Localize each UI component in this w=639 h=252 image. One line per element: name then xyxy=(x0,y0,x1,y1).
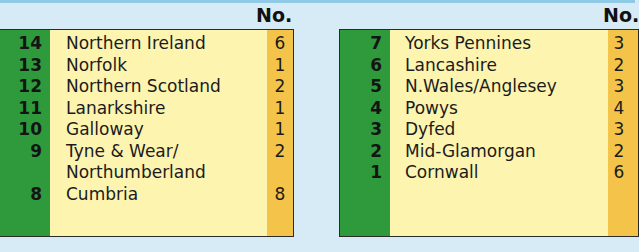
count-cell: 1 xyxy=(267,55,293,77)
rank-cell: 1 xyxy=(340,162,382,184)
table-row: 7Yorks Pennines3 xyxy=(340,33,638,55)
count-cell: 1 xyxy=(267,119,293,141)
count-cell: 6 xyxy=(267,33,293,55)
table-row: 9Tyne & Wear/2 xyxy=(0,141,293,163)
region-name: Dyfed xyxy=(405,119,455,141)
count-cell: 8 xyxy=(267,184,293,206)
rank-cell: 9 xyxy=(0,141,42,163)
table-row: 5N.Wales/Anglesey3 xyxy=(340,76,638,98)
right-table: 7Yorks Pennines36Lancashire25N.Wales/Ang… xyxy=(339,29,639,237)
region-name: Northern Scotland xyxy=(66,76,221,98)
region-name: Yorks Pennines xyxy=(405,33,531,55)
rank-cell: 4 xyxy=(340,98,382,120)
region-name: Norfolk xyxy=(66,55,127,77)
region-name: Cumbria xyxy=(66,184,138,206)
rank-cell: 3 xyxy=(340,119,382,141)
table-row: 2Mid-Glamorgan2 xyxy=(340,141,638,163)
table-row: 14Northern Ireland6 xyxy=(0,33,293,55)
region-name: Galloway xyxy=(66,119,144,141)
table-row: 13Norfolk1 xyxy=(0,55,293,77)
table-row: 10Galloway1 xyxy=(0,119,293,141)
count-cell: 4 xyxy=(608,98,630,120)
table-row: 8Cumbria8 xyxy=(0,184,293,206)
table-row: 6Lancashire2 xyxy=(340,55,638,77)
right-no-header: No. xyxy=(603,4,639,26)
table-row: 11Lanarkshire1 xyxy=(0,98,293,120)
region-name: Northumberland xyxy=(66,162,206,184)
region-name: Cornwall xyxy=(405,162,479,184)
rank-cell: 12 xyxy=(0,76,42,98)
top-divider xyxy=(0,0,635,3)
left-table: 14Northern Ireland613Norfolk112Northern … xyxy=(0,29,294,237)
table-row: 3Dyfed3 xyxy=(340,119,638,141)
rank-cell: 5 xyxy=(340,76,382,98)
rank-cell: 10 xyxy=(0,119,42,141)
rank-cell: 11 xyxy=(0,98,42,120)
count-cell: 3 xyxy=(608,119,630,141)
count-cell: 1 xyxy=(267,98,293,120)
count-cell: 6 xyxy=(608,162,630,184)
region-name: Northern Ireland xyxy=(66,33,206,55)
count-cell: 2 xyxy=(267,76,293,98)
rank-cell: 6 xyxy=(340,55,382,77)
count-cell: 3 xyxy=(608,76,630,98)
rank-cell: 8 xyxy=(0,184,42,206)
table-row: 12Northern Scotland2 xyxy=(0,76,293,98)
rank-cell: 7 xyxy=(340,33,382,55)
rank-cell: 13 xyxy=(0,55,42,77)
count-cell: 2 xyxy=(267,141,293,163)
count-cell: 2 xyxy=(608,141,630,163)
table-row: 4Powys4 xyxy=(340,98,638,120)
region-name: Mid-Glamorgan xyxy=(405,141,536,163)
table-row: Northumberland xyxy=(0,162,293,184)
region-name: N.Wales/Anglesey xyxy=(405,76,557,98)
region-name: Lancashire xyxy=(405,55,497,77)
table-row: 1Cornwall6 xyxy=(340,162,638,184)
count-cell: 3 xyxy=(608,33,630,55)
region-name: Tyne & Wear/ xyxy=(66,141,179,163)
count-cell: 2 xyxy=(608,55,630,77)
rank-cell: 14 xyxy=(0,33,42,55)
rank-cell: 2 xyxy=(340,141,382,163)
region-name: Powys xyxy=(405,98,458,120)
region-name: Lanarkshire xyxy=(66,98,165,120)
left-no-header: No. xyxy=(256,4,292,26)
